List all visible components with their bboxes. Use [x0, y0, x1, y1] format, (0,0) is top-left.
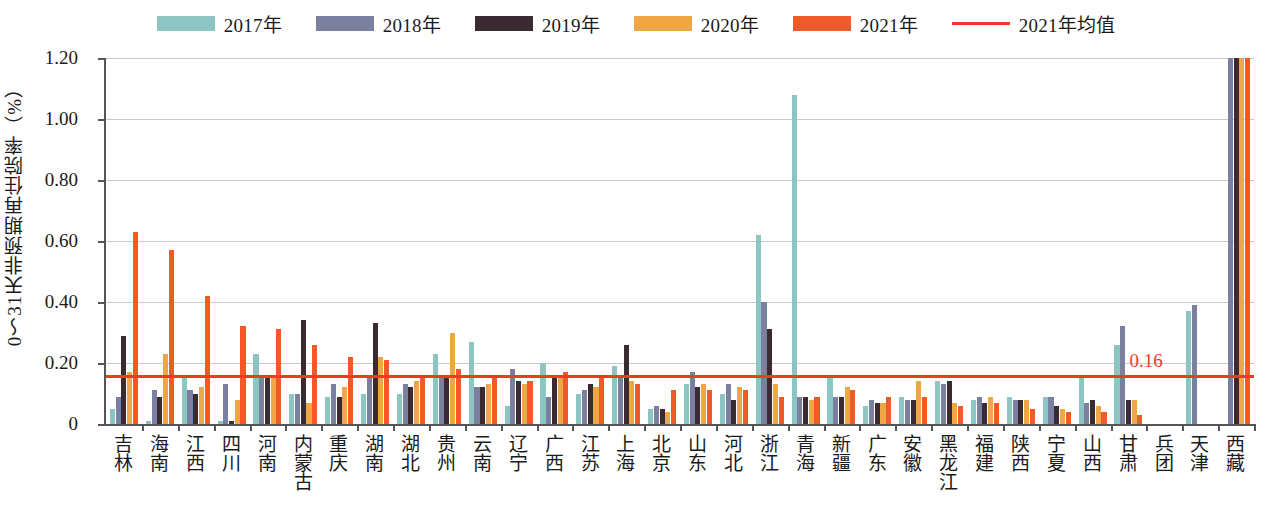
- bar[interactable]: [223, 384, 228, 424]
- bar[interactable]: [1096, 406, 1101, 424]
- bar[interactable]: [952, 403, 957, 424]
- bar[interactable]: [1186, 311, 1191, 424]
- bar[interactable]: [1066, 412, 1071, 424]
- bar[interactable]: [593, 387, 598, 424]
- bar[interactable]: [1245, 58, 1250, 424]
- bar[interactable]: [845, 387, 850, 424]
- bar[interactable]: [863, 406, 868, 424]
- bar[interactable]: [922, 397, 927, 424]
- bar[interactable]: [378, 357, 383, 424]
- bar[interactable]: [486, 384, 491, 424]
- bar[interactable]: [880, 403, 885, 424]
- bar[interactable]: [1060, 409, 1065, 424]
- bar[interactable]: [193, 394, 198, 425]
- bar[interactable]: [576, 394, 581, 425]
- bar[interactable]: [271, 378, 276, 424]
- bar[interactable]: [648, 409, 653, 424]
- bar[interactable]: [1013, 400, 1018, 424]
- legend-item[interactable]: 2018年: [316, 10, 441, 37]
- bar[interactable]: [988, 397, 993, 424]
- bar[interactable]: [253, 354, 258, 424]
- bar[interactable]: [635, 384, 640, 424]
- bar[interactable]: [1137, 415, 1142, 424]
- bar[interactable]: [797, 397, 802, 424]
- legend-item[interactable]: 2020年: [634, 10, 759, 37]
- bar[interactable]: [331, 384, 336, 424]
- bar[interactable]: [618, 375, 623, 424]
- bar[interactable]: [707, 390, 712, 424]
- bar[interactable]: [492, 375, 497, 424]
- bar[interactable]: [133, 232, 138, 424]
- bar[interactable]: [809, 400, 814, 424]
- bar[interactable]: [505, 406, 510, 424]
- bar[interactable]: [450, 333, 455, 425]
- bar[interactable]: [958, 406, 963, 424]
- bar[interactable]: [480, 387, 485, 424]
- bar[interactable]: [911, 400, 916, 424]
- bar[interactable]: [116, 397, 121, 424]
- bar[interactable]: [1007, 397, 1012, 424]
- bar[interactable]: [850, 390, 855, 424]
- bar[interactable]: [110, 409, 115, 424]
- bar[interactable]: [695, 387, 700, 424]
- bar[interactable]: [905, 400, 910, 424]
- bar[interactable]: [654, 406, 659, 424]
- bar[interactable]: [761, 302, 766, 424]
- bar[interactable]: [899, 397, 904, 424]
- bar[interactable]: [1054, 406, 1059, 424]
- bar[interactable]: [420, 375, 425, 424]
- bar[interactable]: [731, 400, 736, 424]
- bar[interactable]: [337, 397, 342, 424]
- bar[interactable]: [1101, 412, 1106, 424]
- bar[interactable]: [726, 384, 731, 424]
- bar[interactable]: [665, 412, 670, 424]
- bar[interactable]: [1192, 305, 1197, 424]
- bar[interactable]: [1030, 409, 1035, 424]
- bar[interactable]: [701, 384, 706, 424]
- legend-item[interactable]: 2019年: [475, 10, 600, 37]
- bar[interactable]: [522, 384, 527, 424]
- bar[interactable]: [660, 409, 665, 424]
- bar[interactable]: [629, 381, 634, 424]
- bar[interactable]: [127, 372, 132, 424]
- bar[interactable]: [982, 403, 987, 424]
- bar[interactable]: [469, 342, 474, 424]
- bar[interactable]: [814, 397, 819, 424]
- bar[interactable]: [403, 384, 408, 424]
- bar[interactable]: [439, 375, 444, 424]
- bar[interactable]: [994, 403, 999, 424]
- bar[interactable]: [599, 378, 604, 424]
- bar[interactable]: [935, 381, 940, 424]
- bar[interactable]: [121, 336, 126, 424]
- bar[interactable]: [690, 372, 695, 424]
- bar[interactable]: [516, 381, 521, 424]
- bar[interactable]: [875, 403, 880, 424]
- bar[interactable]: [301, 320, 306, 424]
- bar[interactable]: [187, 390, 192, 424]
- bar[interactable]: [971, 400, 976, 424]
- bar[interactable]: [916, 381, 921, 424]
- bar[interactable]: [348, 357, 353, 424]
- bar[interactable]: [199, 387, 204, 424]
- bar[interactable]: [671, 390, 676, 424]
- legend-item[interactable]: 2017年: [157, 10, 282, 37]
- bar[interactable]: [384, 360, 389, 424]
- bar[interactable]: [444, 378, 449, 424]
- bar[interactable]: [152, 390, 157, 424]
- bar[interactable]: [743, 390, 748, 424]
- legend-item[interactable]: 2021年: [793, 10, 918, 37]
- bar[interactable]: [259, 378, 264, 424]
- legend-item[interactable]: 2021年均值: [952, 10, 1115, 37]
- bar[interactable]: [563, 372, 568, 424]
- bar[interactable]: [414, 381, 419, 424]
- bar[interactable]: [182, 378, 187, 424]
- bar[interactable]: [947, 381, 952, 424]
- bar[interactable]: [684, 384, 689, 424]
- bar[interactable]: [1234, 58, 1239, 424]
- bar[interactable]: [474, 387, 479, 424]
- bar[interactable]: [1126, 400, 1131, 424]
- bar[interactable]: [779, 397, 784, 424]
- bar[interactable]: [361, 394, 366, 425]
- bar[interactable]: [720, 394, 725, 425]
- bar[interactable]: [235, 400, 240, 424]
